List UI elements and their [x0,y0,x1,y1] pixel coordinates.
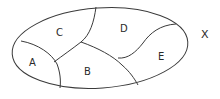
region-label-d: D [120,23,128,34]
region-label-a: A [29,57,36,68]
region-label-c: C [56,27,63,38]
region-label-b: B [84,66,91,77]
universal-set-label: X [201,28,209,41]
region-diagram: A B C D E X [0,0,220,99]
divider-b-d [81,42,138,85]
region-label-e: E [158,51,164,62]
outer-ellipse [9,2,190,94]
